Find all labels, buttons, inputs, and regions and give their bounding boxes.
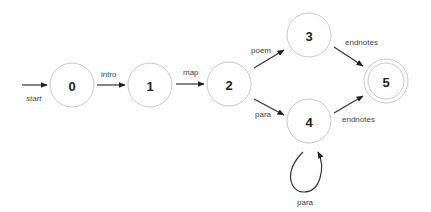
edge-4-4-loop <box>291 152 322 192</box>
fsa-diagram: start intro map poem para endnotes endno… <box>0 0 431 212</box>
edge-label-para: para <box>255 110 272 119</box>
state-4: 4 <box>287 99 331 143</box>
state-label: 1 <box>146 79 153 94</box>
state-5-accepting: 5 <box>364 59 408 103</box>
edge-label-endnotes-bottom: endnotes <box>342 115 375 124</box>
edge-label-para-loop: para <box>297 198 314 207</box>
state-2: 2 <box>207 62 251 106</box>
state-label: 3 <box>305 29 312 44</box>
edge-label-poem: poem <box>251 46 271 55</box>
state-label: 0 <box>68 79 75 94</box>
state-1: 1 <box>128 63 172 107</box>
edge-3-5 <box>334 47 363 66</box>
edge-label-endnotes-top: endnotes <box>345 38 378 47</box>
state-label: 4 <box>305 115 313 130</box>
state-3: 3 <box>287 13 331 57</box>
edge-label-intro: intro <box>101 70 117 79</box>
start-label: start <box>26 94 42 103</box>
edge-4-5 <box>334 96 363 113</box>
state-0: 0 <box>50 63 94 107</box>
edge-label-map: map <box>183 68 199 77</box>
state-label: 5 <box>382 75 389 90</box>
state-label: 2 <box>225 78 232 93</box>
